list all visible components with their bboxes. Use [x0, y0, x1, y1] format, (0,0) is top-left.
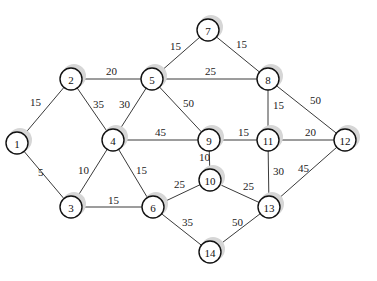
edge-weight-label: 30: [273, 165, 285, 177]
edge-weight-label: 20: [106, 65, 118, 77]
node-label: 3: [68, 202, 74, 214]
edge-weight-label: 10: [78, 164, 90, 176]
edge-weight-label: 20: [305, 126, 317, 138]
node-3: 3: [60, 192, 86, 218]
edge-weight-label: 45: [155, 126, 167, 138]
node-12: 12: [334, 125, 360, 151]
node-label: 14: [205, 247, 217, 259]
edge-weight-label: 25: [243, 180, 255, 192]
edge-1-3: [17, 143, 71, 207]
weighted-graph-diagram: 1552035101530154515255025351515501510252…: [0, 0, 377, 281]
node-11: 11: [257, 125, 283, 151]
node-label: 4: [110, 135, 116, 147]
edge-weight-label: 25: [205, 65, 217, 77]
edge-weight-label: 50: [232, 216, 244, 228]
node-5: 5: [141, 64, 167, 90]
edges-layer: [17, 30, 345, 252]
node-9: 9: [198, 125, 224, 151]
node-8: 8: [257, 64, 283, 90]
edge-weight-label: 30: [119, 98, 131, 110]
edge-weight-label: 15: [136, 164, 148, 176]
node-label: 12: [340, 135, 351, 147]
node-label: 6: [150, 202, 156, 214]
edge-weight-label: 15: [108, 194, 120, 206]
node-label: 7: [205, 25, 211, 37]
node-label: 11: [263, 135, 274, 147]
edge-weight-label: 50: [310, 94, 322, 106]
node-label: 1: [14, 138, 20, 150]
node-14: 14: [199, 237, 225, 263]
edge-weight-label: 5: [38, 166, 44, 178]
edge-weight-label: 45: [298, 162, 310, 174]
node-label: 13: [264, 202, 276, 214]
edge-weight-label: 50: [183, 97, 195, 109]
edge-weight-label: 35: [93, 98, 105, 110]
node-13: 13: [258, 192, 284, 218]
edge-weight-label: 15: [236, 38, 248, 50]
edge-weight-label: 15: [238, 126, 250, 138]
edge-weight-label: 15: [30, 96, 42, 108]
edge-weight-label: 10: [199, 151, 211, 163]
edge-weight-label: 35: [182, 216, 194, 228]
edge-weight-label: 25: [174, 178, 186, 190]
node-10: 10: [199, 165, 225, 191]
node-label: 2: [68, 74, 74, 86]
edge-weight-label: 15: [170, 40, 182, 52]
node-label: 8: [265, 74, 271, 86]
node-label: 5: [149, 74, 155, 86]
node-1: 1: [6, 128, 32, 154]
node-7: 7: [197, 15, 223, 41]
node-label: 10: [205, 175, 217, 187]
edge-weight-label: 15: [273, 99, 285, 111]
node-label: 9: [206, 135, 212, 147]
node-2: 2: [60, 64, 86, 90]
